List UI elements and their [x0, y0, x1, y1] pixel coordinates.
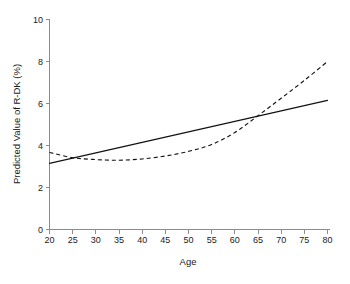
x-tick-label: 20	[44, 235, 54, 245]
x-tick-label: 60	[230, 235, 240, 245]
x-tick-label: 65	[253, 235, 263, 245]
series-line-spline-fit	[50, 62, 328, 161]
x-tick-label: 45	[160, 235, 170, 245]
x-axis-ticks	[50, 230, 328, 234]
x-tick-label: 75	[299, 235, 309, 245]
line-chart: 10 8 6 4 2 0 20 25 30 3	[0, 0, 350, 284]
x-tick-label: 70	[276, 235, 286, 245]
chart-figure: 10 8 6 4 2 0 20 25 30 3	[0, 0, 350, 284]
y-tick-label: 2	[38, 183, 43, 193]
y-tick-label: 6	[38, 99, 43, 109]
x-tick-label: 50	[183, 235, 193, 245]
x-tick-label: 25	[68, 235, 78, 245]
y-axis-ticks	[46, 20, 50, 230]
x-tick-label: 35	[114, 235, 124, 245]
y-tick-label: 10	[33, 15, 43, 25]
y-tick-label: 8	[38, 57, 43, 67]
x-tick-label: 55	[207, 235, 217, 245]
x-axis-tick-labels: 20 25 30 35 40 45 50 55 60 65 70 75 80	[44, 235, 332, 245]
x-tick-label: 80	[322, 235, 332, 245]
y-axis-title: Predicted Value of R-DK (%)	[11, 64, 22, 184]
y-tick-label: 0	[38, 225, 43, 235]
series-line-linear-fit	[50, 100, 328, 163]
x-axis-title: Age	[180, 256, 197, 267]
y-tick-label: 4	[38, 141, 43, 151]
y-axis-tick-labels: 10 8 6 4 2 0	[33, 15, 43, 235]
x-tick-label: 40	[137, 235, 147, 245]
x-tick-label: 30	[91, 235, 101, 245]
